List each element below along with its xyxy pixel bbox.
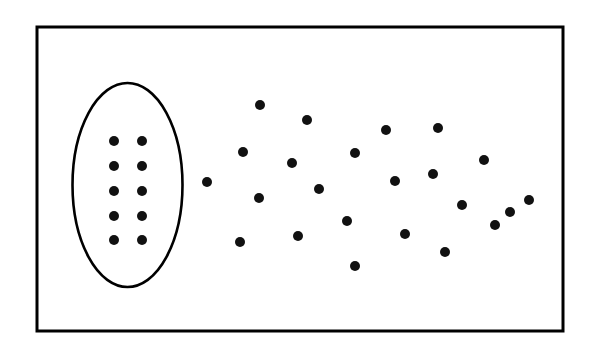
dot-marker (350, 148, 360, 158)
dot-marker (400, 229, 410, 239)
diagram-canvas (0, 0, 592, 362)
dot-marker (293, 231, 303, 241)
dot-marker (109, 136, 119, 146)
dot-marker (109, 186, 119, 196)
dot-marker (479, 155, 489, 165)
dot-marker (428, 169, 438, 179)
dot-marker (238, 147, 248, 157)
dot-marker (202, 177, 212, 187)
dot-marker (440, 247, 450, 257)
dot-marker (314, 184, 324, 194)
dot-marker (457, 200, 467, 210)
ordered-region-ellipse (73, 83, 183, 287)
ordered-dot-grid (109, 136, 147, 245)
dot-marker (350, 261, 360, 271)
dot-marker (137, 235, 147, 245)
dot-marker (109, 235, 119, 245)
dot-marker (254, 193, 264, 203)
diagram-svg (0, 0, 592, 362)
dot-marker (433, 123, 443, 133)
dot-marker (505, 207, 515, 217)
dot-marker (342, 216, 352, 226)
dot-marker (137, 186, 147, 196)
dot-marker (109, 211, 119, 221)
dot-marker (302, 115, 312, 125)
dot-marker (255, 100, 265, 110)
dot-marker (381, 125, 391, 135)
dot-marker (137, 211, 147, 221)
dot-marker (137, 161, 147, 171)
dot-marker (524, 195, 534, 205)
dot-marker (109, 161, 119, 171)
dot-marker (390, 176, 400, 186)
dot-marker (235, 237, 245, 247)
dot-marker (490, 220, 500, 230)
dot-marker (287, 158, 297, 168)
dot-marker (137, 136, 147, 146)
disordered-dot-scatter (202, 100, 534, 271)
